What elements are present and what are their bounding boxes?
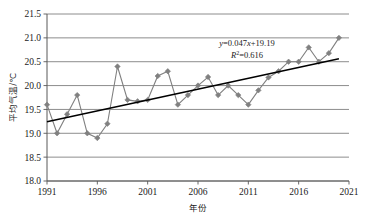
- y-tick-label: 20.0: [24, 81, 41, 91]
- x-tick-label: 2006: [189, 187, 208, 197]
- temperature-line-chart: 18.018.519.019.520.020.521.021.5 1991199…: [0, 0, 367, 224]
- x-tick-label: 1996: [88, 187, 107, 197]
- y-tick-label: 21.5: [24, 9, 41, 19]
- y-tick-label: 19.5: [24, 105, 41, 115]
- y-tick-label: 19.0: [24, 129, 41, 139]
- x-tick-label: 2021: [340, 187, 359, 197]
- x-tick-label: 2016: [289, 187, 308, 197]
- trendline-r-squared-label: R2=0.616: [230, 50, 263, 60]
- x-axis-title: 年份: [189, 203, 207, 213]
- x-tick-label: 1991: [38, 187, 57, 197]
- y-tick-label: 18.5: [24, 153, 41, 163]
- y-axis-title: 平均气温/℃: [8, 73, 18, 122]
- chart-container: 18.018.519.019.520.020.521.021.5 1991199…: [0, 0, 367, 224]
- y-tick-label: 18.0: [24, 176, 41, 186]
- x-tick-label: 2011: [239, 187, 258, 197]
- x-tick-label: 2001: [138, 187, 157, 197]
- trendline-equation-label: y=0.047x+19.19: [218, 38, 274, 48]
- y-tick-label: 21.0: [24, 33, 41, 43]
- y-tick-label: 20.5: [24, 57, 41, 67]
